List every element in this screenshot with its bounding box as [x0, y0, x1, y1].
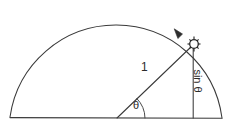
sine-label: sin θ [192, 69, 203, 92]
radius-line [117, 46, 192, 118]
arc-direction-arrowhead [174, 29, 182, 39]
radius-label: 1 [141, 61, 148, 73]
angle-label-theta: θ [133, 100, 139, 111]
unit-circle-diagram: 1 θ sin θ [0, 0, 231, 129]
sine-label-container: sin θ [190, 58, 204, 104]
point-marker-node [188, 37, 201, 52]
baseline-diameter [10, 118, 222, 119]
